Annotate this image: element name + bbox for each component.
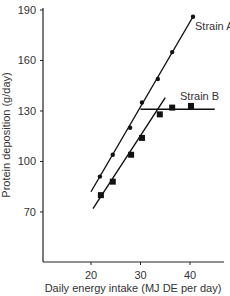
series-labels: Strain AStrain B (180, 20, 230, 102)
y-tick-label: 190 (18, 4, 36, 16)
data-point-square (157, 111, 163, 117)
y-tick-label: 130 (18, 105, 36, 117)
protein-deposition-chart: 70100130160190 203040 Strain AStrain B D… (0, 0, 230, 296)
data-point-circle (191, 15, 195, 19)
y-axis-title: Protein deposition (g/day) (0, 72, 12, 197)
data-point-square (139, 135, 145, 141)
series-label-strain-a: Strain A (195, 20, 230, 32)
data-point-circle (156, 77, 160, 81)
data-point-square (110, 179, 116, 185)
data-point-circle (140, 100, 144, 104)
x-tick-label: 20 (85, 269, 97, 281)
y-ticks: 70100130160190 (18, 4, 43, 218)
series-label-strain-b: Strain B (180, 90, 219, 102)
data-point-circle (111, 153, 115, 157)
data-point-circle (98, 174, 102, 178)
data-point-square (188, 103, 194, 109)
x-tick-label: 40 (184, 269, 196, 281)
data-point-circle (128, 126, 132, 130)
y-tick-label: 100 (18, 155, 36, 167)
data-point-square (98, 192, 104, 198)
fit-lines (91, 17, 215, 209)
data-point-circle (170, 50, 174, 54)
data-point-square (169, 105, 175, 111)
x-ticks: 203040 (85, 262, 196, 281)
data-points (98, 15, 195, 199)
data-point-square (128, 152, 134, 158)
y-tick-label: 160 (18, 54, 36, 66)
x-tick-label: 30 (134, 269, 146, 281)
y-tick-label: 70 (24, 206, 36, 218)
axes (43, 8, 224, 262)
x-axis-title: Daily energy intake (MJ DE per day) (45, 282, 222, 294)
